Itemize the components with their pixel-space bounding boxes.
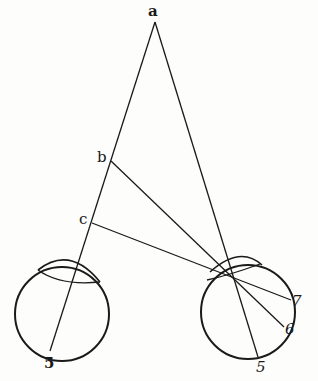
left-eye-cornea-arc — [38, 260, 100, 282]
right-eye-circle — [201, 265, 295, 359]
label-b: b — [97, 148, 107, 166]
label-left-5: 5 — [44, 354, 54, 372]
line-c-to-7 — [92, 223, 291, 300]
label-right-6: 6 — [285, 320, 295, 338]
label-right-5: 5 — [256, 358, 266, 376]
line-a-to-left-5 — [50, 22, 155, 351]
line-a-to-right-5 — [155, 22, 258, 357]
diagram-canvas: a b c 5 7 6 5 — [0, 0, 318, 381]
label-a: a — [148, 2, 158, 20]
line-b-to-6 — [111, 161, 284, 327]
label-c: c — [79, 210, 87, 228]
eye-convergence-diagram: a b c 5 7 6 5 — [0, 0, 318, 381]
label-right-7: 7 — [292, 292, 302, 310]
